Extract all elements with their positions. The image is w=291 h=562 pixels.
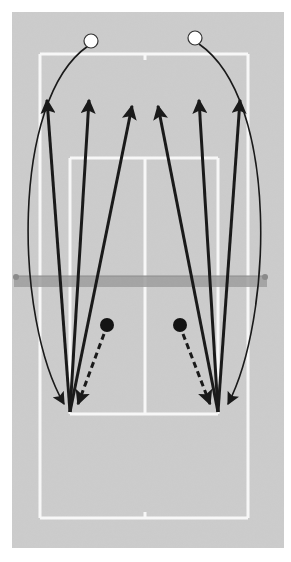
near-right-player-icon: [173, 318, 187, 332]
net-band: [14, 276, 267, 287]
left-net-post: [13, 274, 19, 280]
far-right-player-icon: [188, 31, 202, 45]
tennis-court-diagram: [0, 0, 291, 562]
court-canvas: [0, 0, 291, 562]
far-left-player-icon: [84, 34, 98, 48]
net: [13, 274, 268, 287]
right-net-post: [262, 274, 268, 280]
near-left-player-icon: [100, 318, 114, 332]
